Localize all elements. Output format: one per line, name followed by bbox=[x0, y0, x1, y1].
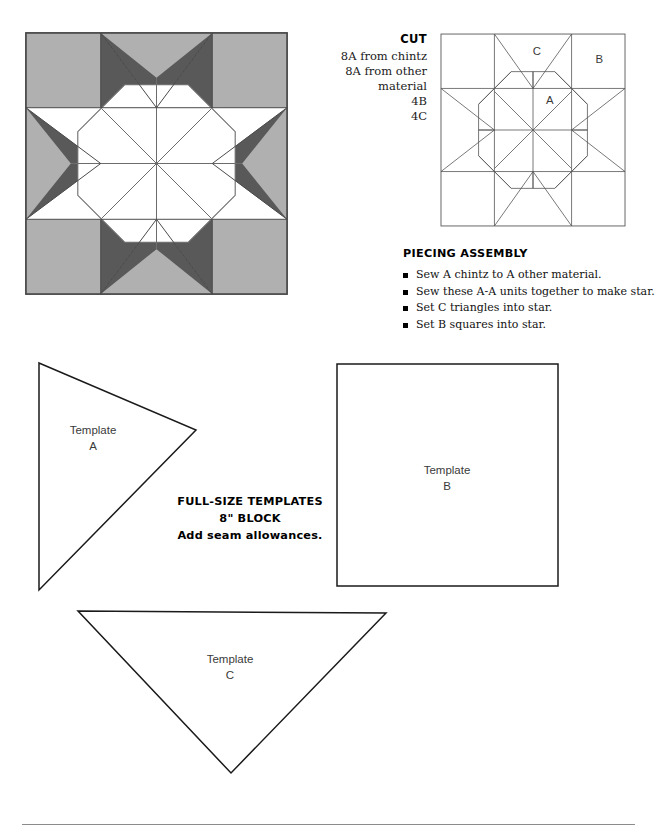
template-a-label-line1: Template bbox=[70, 424, 117, 436]
template-a-label-line2: A bbox=[89, 440, 97, 452]
templates-caption-line1: FULL-SIZE TEMPLATES bbox=[158, 493, 342, 510]
template-c-shape: Template C bbox=[70, 605, 395, 780]
template-a-shape: Template A bbox=[30, 358, 205, 596]
cut-line-3: 4B bbox=[305, 94, 427, 109]
templates-caption-line2: 8" BLOCK bbox=[158, 510, 342, 527]
corner-square-top-left bbox=[26, 33, 101, 108]
template-b-shape: Template B bbox=[333, 360, 562, 590]
piecing-step: Set C triangles into star. bbox=[403, 300, 653, 317]
template-c-label-line2: C bbox=[226, 669, 234, 681]
block-piecing-diagram: C B A bbox=[440, 33, 626, 227]
bullet-square-icon bbox=[403, 290, 408, 295]
template-a-outline bbox=[39, 363, 196, 590]
corner-square-bottom-right bbox=[212, 219, 287, 294]
piecing-step-list: Sew A chintz to A other material. Sew th… bbox=[403, 267, 653, 333]
cut-panel: CUT 8A from chintz 8A from other materia… bbox=[305, 32, 427, 124]
corner-square-bottom-left bbox=[26, 219, 101, 294]
pattern-page: CUT 8A from chintz 8A from other materia… bbox=[0, 0, 657, 837]
piecing-heading: PIECING ASSEMBLY bbox=[403, 247, 653, 260]
template-c-outline bbox=[78, 611, 386, 773]
templates-caption-line3: Add seam allowances. bbox=[158, 527, 342, 544]
cut-line-2: 8A from other material bbox=[305, 64, 427, 94]
cut-line-4: 4C bbox=[305, 109, 427, 124]
template-c-label-line1: Template bbox=[207, 653, 254, 665]
cut-line-1: 8A from chintz bbox=[305, 49, 427, 64]
piecing-step-text: Sew these A-A units together to make sta… bbox=[416, 285, 655, 298]
templates-caption: FULL-SIZE TEMPLATES 8" BLOCK Add seam al… bbox=[158, 493, 342, 544]
diagram-label-b: B bbox=[595, 53, 603, 65]
piecing-step: Sew A chintz to A other material. bbox=[403, 267, 653, 284]
piecing-step: Sew these A-A units together to make sta… bbox=[403, 284, 653, 301]
piecing-step-text: Set C triangles into star. bbox=[416, 301, 552, 314]
bullet-square-icon bbox=[403, 323, 408, 328]
corner-square-top-right bbox=[212, 33, 287, 108]
piecing-step: Set B squares into star. bbox=[403, 317, 653, 334]
piecing-step-text: Set B squares into star. bbox=[416, 318, 546, 331]
quilt-block-illustration bbox=[25, 32, 288, 295]
footer-divider bbox=[22, 824, 635, 825]
cut-heading: CUT bbox=[305, 32, 427, 47]
template-b-label-line2: B bbox=[443, 480, 451, 492]
piecing-step-text: Sew A chintz to A other material. bbox=[416, 268, 602, 281]
bullet-square-icon bbox=[403, 273, 408, 278]
bullet-square-icon bbox=[403, 306, 408, 311]
template-b-label-line1: Template bbox=[424, 464, 471, 476]
diagram-label-a: A bbox=[546, 94, 554, 106]
diagram-label-c: C bbox=[533, 45, 541, 57]
piecing-assembly-panel: PIECING ASSEMBLY Sew A chintz to A other… bbox=[403, 247, 653, 333]
